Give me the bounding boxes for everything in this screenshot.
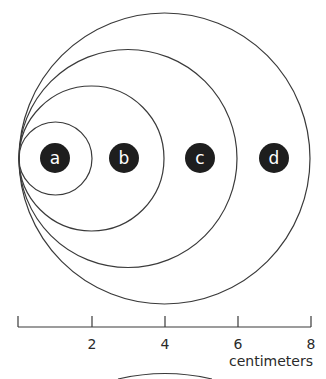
tick-label-4: 4: [161, 336, 170, 352]
unit-label: centimeters: [229, 353, 313, 369]
badge-b: b: [109, 143, 139, 173]
tick-label-6: 6: [234, 336, 243, 352]
badge-c: c: [185, 143, 215, 173]
scale-bar: 2 4 6 8 centimeters: [18, 316, 315, 369]
badge-d: d: [259, 143, 289, 173]
diagram-canvas: a b c d 2 4 6 8 centimeters: [0, 0, 326, 379]
badge-d-label: d: [269, 148, 280, 168]
badge-b-label: b: [119, 148, 130, 168]
badge-a: a: [40, 143, 70, 173]
tick-label-8: 8: [307, 336, 316, 352]
badge-c-label: c: [195, 148, 204, 168]
partial-arc-bottom: [118, 374, 212, 379]
badge-a-label: a: [50, 148, 60, 168]
tick-label-2: 2: [88, 336, 97, 352]
